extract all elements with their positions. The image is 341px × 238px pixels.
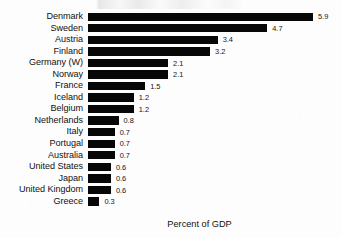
bar-row: Finland3.2 <box>0 46 341 58</box>
bar-track <box>88 128 115 136</box>
bar-chart: Denmark5.9Sweden4.7Austria3.4Finland3.2G… <box>0 0 341 238</box>
bar-value-label: 3.4 <box>223 34 233 46</box>
bar-row: United Kingdom0.6 <box>0 184 341 196</box>
bar <box>88 186 111 194</box>
bar-track <box>88 197 99 205</box>
bar-track <box>88 151 115 159</box>
bar-track <box>88 82 145 90</box>
bar-track <box>88 70 168 78</box>
category-label: Australia <box>48 150 83 162</box>
bar-value-label: 2.1 <box>173 69 183 81</box>
bar <box>88 47 210 55</box>
bar-value-label: 0.6 <box>116 173 126 185</box>
bar-row: Greece0.3 <box>0 196 341 208</box>
bar <box>88 82 145 90</box>
bar-row: Denmark5.9 <box>0 11 341 23</box>
category-label: Portugal <box>50 138 83 150</box>
bar-track <box>88 186 111 194</box>
bar <box>88 151 115 159</box>
bar <box>88 140 115 148</box>
bar-row: Austria3.4 <box>0 34 341 46</box>
bar <box>88 105 134 113</box>
bar-row: Germany (W)2.1 <box>0 57 341 69</box>
bar-row: Sweden4.7 <box>0 23 341 35</box>
bar <box>88 13 313 21</box>
category-label: Denmark <box>46 11 83 23</box>
category-label: Netherlands <box>35 115 84 127</box>
bar-row: Belgium1.2 <box>0 103 341 115</box>
bar-row: Netherlands0.8 <box>0 115 341 127</box>
bar <box>88 174 111 182</box>
category-label: Belgium <box>50 103 83 115</box>
category-label: Germany (W) <box>29 57 83 69</box>
bar-row: Japan0.6 <box>0 173 341 185</box>
bar-track <box>88 174 111 182</box>
category-label: Italy <box>67 126 83 138</box>
bar-value-label: 0.3 <box>104 196 114 208</box>
bar <box>88 59 168 67</box>
bar-value-label: 0.6 <box>116 185 126 197</box>
chart-plot-area: Denmark5.9Sweden4.7Austria3.4Finland3.2G… <box>0 11 341 213</box>
bar-row: United States0.6 <box>0 161 341 173</box>
bar <box>88 116 119 124</box>
category-label: United States <box>29 161 83 173</box>
bar-value-label: 5.9 <box>318 11 328 23</box>
bar <box>88 24 267 32</box>
bar-row: France1.5 <box>0 80 341 92</box>
bar <box>88 70 168 78</box>
bar-track <box>88 36 218 44</box>
bar-track <box>88 163 111 171</box>
bar-value-label: 0.6 <box>116 162 126 174</box>
bar-value-label: 0.7 <box>120 138 130 150</box>
bar <box>88 93 134 101</box>
bar-track <box>88 93 134 101</box>
bar-value-label: 0.7 <box>120 150 130 162</box>
bar-value-label: 0.7 <box>120 127 130 139</box>
bar <box>88 128 115 136</box>
x-axis-title: Percent of GDP <box>0 219 341 229</box>
bar-track <box>88 24 267 32</box>
category-label: United Kingdom <box>19 184 83 196</box>
category-label: Austria <box>55 34 83 46</box>
bar-track <box>88 116 119 124</box>
bar <box>88 163 111 171</box>
bar <box>88 197 99 205</box>
bar-row: Italy0.7 <box>0 126 341 138</box>
bar-value-label: 3.2 <box>215 46 225 58</box>
category-label: Sweden <box>50 23 83 35</box>
category-label: Japan <box>58 173 83 185</box>
bar-value-label: 1.5 <box>150 81 160 93</box>
bar-row: Iceland1.2 <box>0 92 341 104</box>
bar <box>88 36 218 44</box>
bar-row: Portugal0.7 <box>0 138 341 150</box>
bar-track <box>88 59 168 67</box>
bar-value-label: 0.8 <box>124 115 134 127</box>
bar-value-label: 4.7 <box>272 23 282 35</box>
bar-row: Norway2.1 <box>0 69 341 81</box>
bar-track <box>88 47 210 55</box>
category-label: Iceland <box>54 92 83 104</box>
bar-track <box>88 105 134 113</box>
bar-value-label: 1.2 <box>139 92 149 104</box>
category-label: Finland <box>54 46 83 58</box>
bar-track <box>88 13 313 21</box>
bar-value-label: 2.1 <box>173 58 183 70</box>
category-label: Greece <box>53 196 83 208</box>
cropped-title-artifact <box>0 0 341 9</box>
bar-track <box>88 140 115 148</box>
category-label: France <box>55 80 83 92</box>
category-label: Norway <box>52 69 83 81</box>
bar-row: Australia0.7 <box>0 150 341 162</box>
bar-value-label: 1.2 <box>139 104 149 116</box>
